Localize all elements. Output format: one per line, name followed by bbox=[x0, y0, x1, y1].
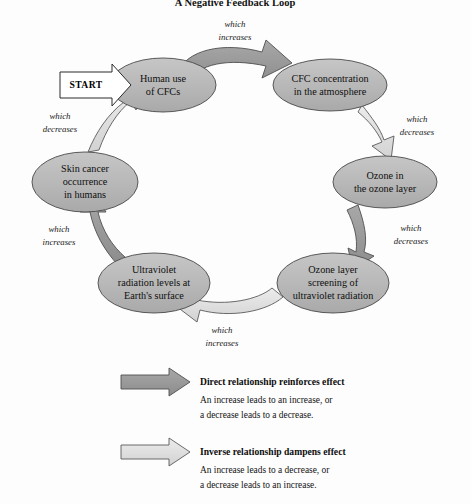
start-badge-label: START bbox=[70, 79, 103, 90]
node-ozone-layer: Ozone in the ozone layer bbox=[333, 156, 437, 208]
edge-label-screening-to-uv-line-1: which bbox=[211, 325, 233, 335]
legend-inverse-desc-line-1: An increase leads to a decrease, or bbox=[200, 465, 330, 475]
node-skin-cancer-line-1: Skin cancer bbox=[61, 163, 109, 174]
node-ozone-screening-line-3: ultraviolet radiation bbox=[293, 290, 374, 301]
node-uv-radiation: Ultraviolet radiation levels at Earth's … bbox=[98, 253, 210, 313]
legend-direct-desc-line-1: An increase leads to an increase, or bbox=[200, 395, 333, 405]
edge-label-ozone-to-screening-line-1: which bbox=[400, 223, 422, 233]
edge-label-cfc-to-ozone-line-1: which bbox=[406, 114, 428, 124]
node-human-use-line-1: Human use bbox=[140, 73, 187, 84]
node-human-use-line-2: of CFCs bbox=[146, 86, 180, 97]
edge-label-human-use-to-cfc-line-1: which bbox=[224, 19, 246, 29]
node-skin-cancer-line-2: occurrence bbox=[63, 176, 108, 187]
node-uv-radiation-line-1: Ultraviolet bbox=[132, 264, 176, 275]
node-ozone-layer-line-1: Ozone in bbox=[366, 170, 403, 181]
edge-label-cfc-to-ozone: which decreases bbox=[400, 114, 435, 137]
node-skin-cancer: Skin cancer occurrence in humans bbox=[32, 152, 138, 212]
edge-label-ozone-to-screening-line-2: decreases bbox=[394, 236, 429, 246]
node-cfc-concentration-line-1: CFC concentration bbox=[291, 73, 368, 84]
edge-arrow-cfc-to-ozone bbox=[358, 105, 394, 160]
edge-label-skin-cancer-to-human-use: which decreases bbox=[43, 111, 78, 134]
page-title: A Negative Feedback Loop bbox=[175, 0, 296, 8]
legend-inverse-arrow-icon bbox=[121, 438, 190, 466]
node-uv-radiation-line-3: Earth's surface bbox=[124, 290, 184, 301]
node-ozone-screening-line-1: Ozone layer bbox=[308, 264, 358, 275]
edge-label-skin-cancer-to-human-use-line-1: which bbox=[49, 111, 71, 121]
edge-label-uv-to-skin-cancer: which increases bbox=[43, 224, 76, 247]
legend-item-direct: Direct relationship reinforces effect An… bbox=[121, 368, 345, 420]
edge-label-uv-to-skin-cancer-line-1: which bbox=[48, 224, 70, 234]
edge-label-screening-to-uv-line-2: increases bbox=[206, 338, 239, 348]
legend-item-inverse: Inverse relationship dampens effect An i… bbox=[121, 438, 346, 490]
edge-label-ozone-to-screening: which decreases bbox=[394, 223, 429, 246]
node-uv-radiation-line-2: radiation levels at bbox=[118, 277, 191, 288]
node-ozone-layer-line-2: the ozone layer bbox=[354, 183, 417, 194]
edge-label-uv-to-skin-cancer-line-2: increases bbox=[43, 237, 76, 247]
legend-inverse-desc-line-2: a decrease leads to an increase. bbox=[200, 480, 317, 490]
legend-direct-title: Direct relationship reinforces effect bbox=[200, 376, 345, 387]
legend-direct-arrow-icon bbox=[121, 368, 190, 396]
feedback-loop-diagram: A Negative Feedback Loop H bbox=[0, 0, 471, 504]
edge-label-skin-cancer-to-human-use-line-2: decreases bbox=[43, 124, 78, 134]
node-ozone-screening-line-2: screening of bbox=[308, 277, 359, 288]
edge-label-human-use-to-cfc-line-2: increases bbox=[219, 32, 252, 42]
diagram-page: A Negative Feedback Loop H bbox=[0, 0, 471, 504]
edge-label-screening-to-uv: which increases bbox=[206, 325, 239, 348]
edge-label-human-use-to-cfc: which increases bbox=[219, 19, 252, 42]
legend-direct-desc-line-2: a decrease leads to a decrease. bbox=[200, 410, 313, 420]
legend-inverse-title: Inverse relationship dampens effect bbox=[200, 446, 346, 457]
node-ozone-screening: Ozone layer screening of ultraviolet rad… bbox=[277, 253, 389, 313]
edge-label-cfc-to-ozone-line-2: decreases bbox=[400, 127, 435, 137]
node-cfc-concentration: CFC concentration in the atmosphere bbox=[273, 59, 387, 111]
node-skin-cancer-line-3: in humans bbox=[64, 189, 106, 200]
node-cfc-concentration-line-2: in the atmosphere bbox=[294, 86, 367, 97]
